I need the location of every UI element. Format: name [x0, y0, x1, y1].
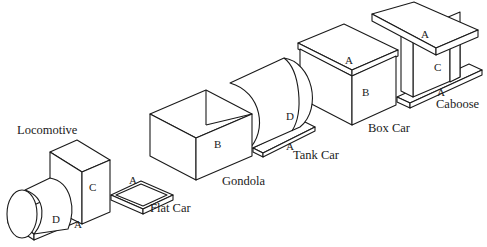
box-car-roof-label: A — [345, 54, 353, 66]
flat-car-deck-label: A — [129, 174, 137, 186]
flat-car-caption: Flat Car — [150, 201, 191, 215]
gondola-box-label: B — [214, 138, 221, 150]
gondola — [150, 90, 252, 180]
locomotive-caption: Locomotive — [17, 123, 78, 137]
locomotive-boiler-label: D — [52, 213, 60, 225]
caboose-caption: Caboose — [436, 97, 480, 111]
box-car-body-label: B — [362, 86, 369, 98]
locomotive-cab-label: C — [89, 181, 96, 193]
box-car-caption: Box Car — [368, 121, 411, 135]
locomotive-base-label: A — [74, 218, 82, 230]
tank-car-body-label: D — [286, 110, 294, 122]
box-car — [298, 24, 398, 125]
caboose-roof-label: A — [421, 28, 429, 40]
train-diagram: D C A A B D A A B A C A Locomotive Flat … — [0, 0, 487, 247]
gondola-caption: Gondola — [222, 174, 266, 188]
caboose-body-label: C — [434, 61, 441, 73]
tank-car-caption: Tank Car — [293, 148, 340, 162]
locomotive-boiler-face — [7, 190, 37, 238]
